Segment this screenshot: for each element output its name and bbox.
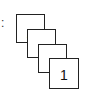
page-number-1: 1 [50,68,78,82]
colon-prefix: : [1,17,4,29]
page-box-1: 1 [49,58,79,89]
